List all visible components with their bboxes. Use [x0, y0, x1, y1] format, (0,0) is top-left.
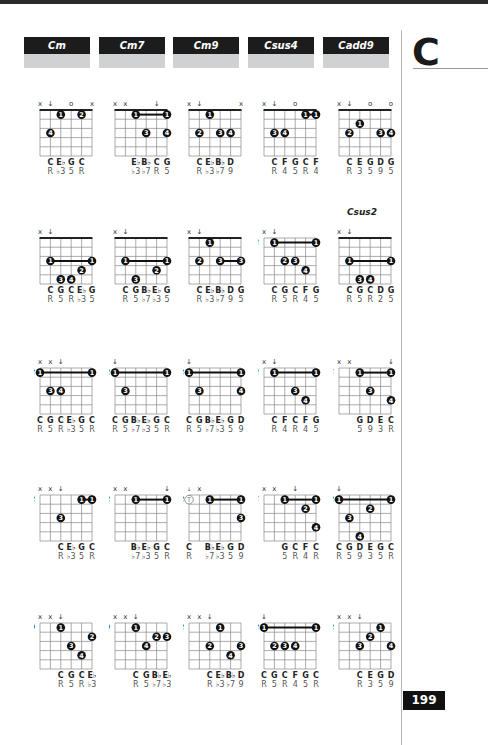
interval-degrees: R5R♭3	[34, 680, 114, 690]
interval-degree: R	[310, 680, 322, 690]
finger-number: 3	[59, 276, 64, 284]
finger-number: 3	[197, 387, 202, 395]
finger-number: 3	[378, 129, 383, 137]
muted-string-icon: x	[38, 228, 42, 236]
chord-diagram-cadd9-r3: xx↓51134GDEC593R	[333, 350, 413, 475]
interval-degree: R	[310, 552, 322, 562]
interval-degree: R	[161, 425, 173, 435]
finger-number: 1	[134, 111, 139, 119]
muted-string-icon: x	[38, 100, 42, 108]
interval-degrees: R5R45	[258, 295, 338, 305]
interval-degree: 5	[385, 295, 397, 305]
strum-start-icon: ↓	[196, 100, 202, 108]
strum-start-icon: ↓	[164, 485, 170, 493]
interval-degree: 9	[235, 425, 247, 435]
finger-number: 3	[368, 387, 373, 395]
strum-start-icon: ↓	[336, 485, 342, 493]
header-band	[248, 54, 314, 68]
muted-string-icon: x	[123, 100, 127, 108]
chord-diagram-cm-r4: xx↓8113CE♭GCR♭35R	[34, 477, 114, 602]
finger-number: 3	[218, 257, 223, 265]
finger-number: 3	[239, 514, 244, 522]
header-label: Cm7	[99, 37, 165, 54]
fret-number: 8	[183, 494, 184, 505]
finger-number: 1	[389, 496, 394, 504]
chord-diagram-cadd9-r1: x↓oo1234CEGDGR3595	[333, 92, 413, 217]
chord-diagram-csus4-r4: xx↓51124GCFC5R4R	[258, 477, 338, 602]
muted-string-icon: x	[262, 100, 266, 108]
open-string-icon: o	[69, 100, 73, 108]
finger-number: 4	[303, 397, 308, 405]
finger-number: 2	[154, 633, 159, 641]
interval-degree: ♭3	[86, 680, 98, 690]
finger-number: 1	[90, 496, 95, 504]
finger-number: 1	[314, 624, 319, 632]
chord-diagram-cm7-r3: ↓8113CGB♭E♭GCR5♭7♭35R	[109, 350, 189, 475]
finger-number: 2	[368, 505, 373, 513]
fret-number: 8	[34, 494, 35, 505]
finger-number: 2	[347, 129, 352, 137]
header-label: Cadd9	[323, 37, 389, 54]
muted-string-icon: x	[337, 613, 341, 621]
finger-number: 3	[272, 129, 277, 137]
finger-number: 1	[48, 257, 53, 265]
interval-degrees: ♭7♭35R	[109, 552, 189, 562]
muted-string-icon: x	[38, 358, 42, 366]
muted-string-icon: x	[113, 613, 117, 621]
strum-start-icon: ↓	[133, 613, 139, 621]
strum-start-icon: ↓	[346, 228, 352, 236]
strum-start-icon: ↓	[207, 613, 213, 621]
finger-number: 2	[368, 633, 373, 641]
strum-start-icon: ↓	[58, 613, 64, 621]
chord-sublabel: Csus2	[347, 207, 377, 217]
key-underline	[413, 68, 488, 69]
interval-degrees: R♭35R	[34, 167, 114, 177]
finger-number: 2	[154, 267, 159, 275]
fret-number: 8	[183, 622, 184, 633]
finger-number: 1	[165, 111, 170, 119]
chord-diagram-cm7-r4: xx↓811B♭E♭GC♭7♭35R	[109, 477, 189, 602]
chord-diagram-csus4-r2: x↓311234CGCFGR5R45	[258, 220, 338, 345]
finger-number: 1	[389, 369, 394, 377]
strum-start-icon: ↓	[292, 485, 298, 493]
finger-number: 4	[358, 533, 363, 541]
header-band	[173, 54, 239, 68]
finger-number: 1	[187, 369, 192, 377]
interval-degree: R	[385, 425, 397, 435]
finger-number: 1	[337, 496, 342, 504]
finger-number: 1	[208, 111, 213, 119]
muted-string-icon: x	[187, 228, 191, 236]
header-band	[24, 54, 90, 68]
finger-number: 1	[165, 369, 170, 377]
muted-string-icon: x	[113, 228, 117, 236]
interval-degree: 5	[161, 167, 173, 177]
chord-diagram-cm-r2: x↓11234CGCE♭GR5R♭35	[34, 220, 114, 345]
finger-number: 4	[389, 642, 394, 650]
interval-degree: 9	[225, 167, 237, 177]
chord-diagram-cadd9-r4: ↓811234CGDEGCR5935R	[333, 477, 413, 602]
interval-degrees: R5935R	[333, 552, 413, 562]
interval-degree: 5	[161, 295, 173, 305]
chord-diagram-cm7-r1: xx↓1134E♭B♭CG♭3♭7R5	[109, 92, 189, 217]
finger-number: 3	[358, 642, 363, 650]
muted-string-icon: x	[113, 485, 117, 493]
interval-degree: 5	[310, 295, 322, 305]
finger-number: 4	[228, 129, 233, 137]
chord-diagram-csus4-r3: x↓31134CFCFGR4R45	[258, 350, 338, 475]
finger-number: 2	[197, 257, 202, 265]
muted-string-icon: x	[48, 613, 52, 621]
strum-start-icon: ↓	[112, 358, 118, 366]
header-label: Cm	[24, 37, 90, 54]
open-string-icon: o	[389, 100, 393, 108]
interval-degree: 9	[235, 680, 247, 690]
muted-string-icon: x	[123, 613, 127, 621]
finger-number: 1	[262, 624, 267, 632]
finger-number: 4	[59, 387, 64, 395]
strum-start-icon: ↓	[58, 358, 64, 366]
finger-number: 1	[165, 496, 170, 504]
finger-number: 4	[314, 524, 319, 532]
header-cm: Cm	[24, 37, 90, 69]
strum-start-icon: ↓	[154, 100, 160, 108]
finger-number: 1	[314, 111, 319, 119]
finger-number: 2	[197, 129, 202, 137]
